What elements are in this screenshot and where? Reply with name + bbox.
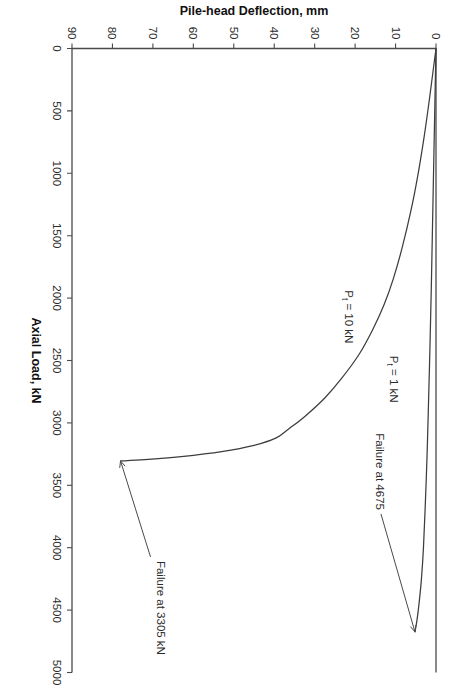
x-tick-label: 2500 [51, 347, 63, 373]
y-tick-label: 50 [228, 26, 240, 39]
chart-canvas: 0500100015002000250030003500400045005000… [0, 0, 454, 689]
annotation-leader-line [121, 460, 151, 556]
x-axis-ticks: 0500100015002000250030003500400045005000 [51, 45, 72, 685]
annotation-failure-4675: Failure at 4675 [374, 433, 416, 632]
y-tick-label: 30 [309, 26, 321, 39]
x-axis-title: Axial Load, kN [29, 317, 43, 403]
y-tick-label: 90 [66, 26, 78, 39]
plot-area: 0500100015002000250030003500400045005000… [0, 0, 454, 689]
series-label-pt-1kn: Pt = 1 kN [385, 355, 400, 402]
y-tick-label: 10 [390, 26, 402, 39]
x-tick-label: 4000 [51, 534, 63, 560]
y-axis-title: Pile-head Deflection, mm [180, 3, 329, 17]
chart-page: 0500100015002000250030003500400045005000… [0, 0, 454, 689]
series-curve-pt-1kn [415, 48, 436, 631]
annotation-label: Failure at 3305 kN [155, 560, 167, 654]
annotation-leader-line [381, 513, 415, 631]
plot-frame [72, 48, 436, 672]
series-label-pt-10kn: Pt = 10 kN [340, 290, 355, 343]
y-tick-label: 0 [430, 33, 442, 39]
x-tick-label: 500 [51, 101, 63, 120]
annotation-failure-3305: Failure at 3305 kN [120, 460, 167, 654]
x-tick-label: 3500 [51, 472, 63, 498]
x-tick-label: 1500 [51, 222, 63, 248]
y-tick-label: 40 [268, 26, 280, 39]
y-tick-label: 60 [187, 26, 199, 39]
x-tick-label: 5000 [51, 659, 63, 685]
annotation-label: Failure at 4675 [374, 433, 386, 510]
x-tick-label: 1000 [51, 160, 63, 186]
rotated-figure: 0500100015002000250030003500400045005000… [0, 0, 454, 689]
x-tick-label: 3000 [51, 410, 63, 436]
y-axis-ticks: 0102030405060708090 [66, 26, 442, 48]
y-tick-label: 20 [349, 26, 361, 39]
y-tick-label: 80 [106, 26, 118, 39]
x-tick-label: 2000 [51, 285, 63, 311]
y-tick-label: 70 [147, 26, 159, 39]
x-tick-label: 0 [51, 45, 63, 51]
x-tick-label: 4500 [51, 597, 63, 623]
